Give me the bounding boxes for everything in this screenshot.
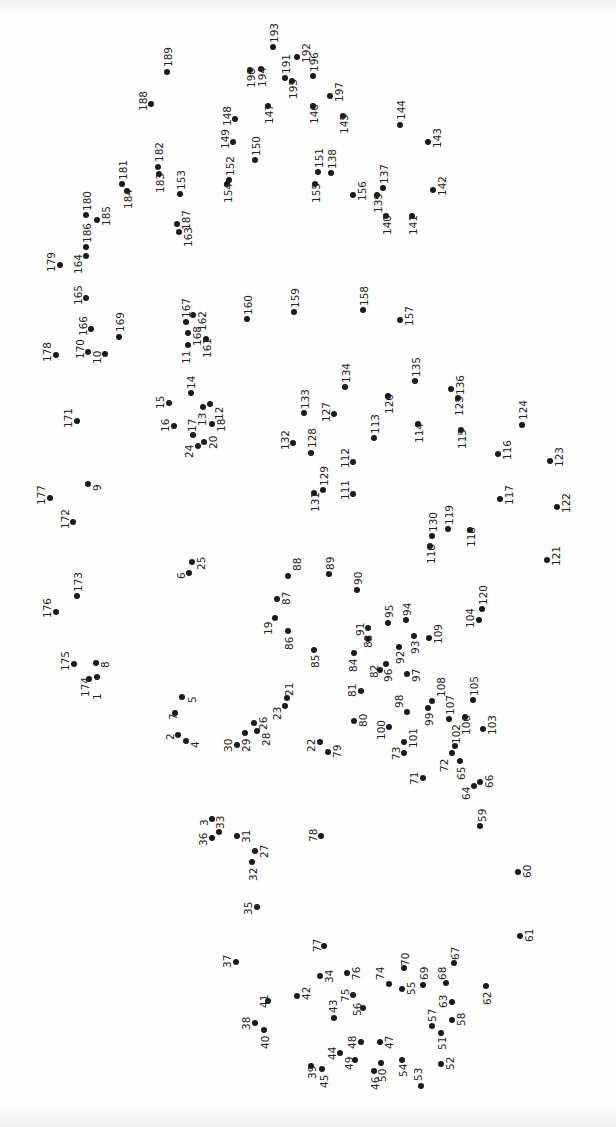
dot-point[interactable] [195,443,201,449]
dot-number-label: 124 [518,400,529,420]
dot-point[interactable] [519,422,525,428]
dot-point[interactable] [451,960,457,966]
dot-point[interactable] [331,1015,337,1021]
dot-point[interactable] [380,185,386,191]
dot-point[interactable] [319,1066,325,1072]
dot-point[interactable] [311,647,317,653]
dot-number-label: 37 [222,955,233,968]
dot-point[interactable] [385,620,391,626]
dot-point[interactable] [315,169,321,175]
dot-point[interactable] [328,170,334,176]
dot-point[interactable] [183,319,189,325]
dot-point[interactable] [291,309,297,315]
dot-point[interactable] [429,533,435,539]
dot-point[interactable] [443,980,449,986]
dot-point[interactable] [476,617,482,623]
dot-point[interactable] [449,750,455,756]
dot-number-label: 56 [352,1003,363,1016]
dot-point[interactable] [234,742,240,748]
dot-number-label: 1 [92,693,103,700]
dot-point[interactable] [301,410,307,416]
dot-point[interactable] [358,1039,364,1045]
dot-point[interactable] [116,334,122,340]
dot-point[interactable] [418,1083,424,1089]
dot-point[interactable] [249,859,255,865]
dot-point[interactable] [119,181,125,187]
dot-point[interactable] [74,418,80,424]
dot-point[interactable] [261,1027,267,1033]
dot-point[interactable] [285,628,291,634]
dot-number-label: 139 [373,193,384,213]
dot-point[interactable] [371,435,377,441]
dot-point[interactable] [438,1030,444,1036]
dot-point[interactable] [166,400,172,406]
dot-point[interactable] [209,835,215,841]
dot-point[interactable] [190,432,196,438]
dot-point[interactable] [216,829,222,835]
dot-number-label: 183 [155,173,166,193]
dot-point[interactable] [252,1020,258,1026]
dot-point[interactable] [179,694,185,700]
dot-number-label: 84 [348,659,359,672]
dot-point[interactable] [47,495,53,501]
dot-point[interactable] [317,739,323,745]
dot-point[interactable] [53,352,59,358]
dot-point[interactable] [425,705,431,711]
dot-point[interactable] [308,450,314,456]
dot-point[interactable] [177,191,183,197]
dot-number-label: 117 [504,485,515,505]
dot-point[interactable] [272,615,278,621]
dot-number-label: 24 [184,445,195,458]
dot-point[interactable] [399,1057,405,1063]
dot-point[interactable] [71,661,77,667]
dot-point[interactable] [383,661,389,667]
dot-point[interactable] [351,650,357,656]
dot-point[interactable] [57,262,63,268]
dot-point[interactable] [200,404,206,410]
dot-point[interactable] [483,983,489,989]
dot-point[interactable] [397,122,403,128]
dot-point[interactable] [378,1060,384,1066]
dot-point[interactable] [420,982,426,988]
dot-point[interactable] [354,587,360,593]
dot-point[interactable] [53,609,59,615]
dot-point[interactable] [233,959,239,965]
dot-point[interactable] [254,904,260,910]
dot-point[interactable] [470,697,476,703]
dot-point[interactable] [326,571,332,577]
dot-point[interactable] [252,157,258,163]
dot-point[interactable] [360,307,366,313]
dot-point[interactable] [477,823,483,829]
dot-point[interactable] [404,709,410,715]
dot-point[interactable] [242,730,248,736]
dot-point[interactable] [403,617,409,623]
dot-point[interactable] [429,698,435,704]
dot-point[interactable] [445,526,451,532]
dot-point[interactable] [155,164,161,170]
dot-number-label: 111 [340,480,351,500]
dot-point[interactable] [83,212,89,218]
dot-point[interactable] [83,244,89,250]
dot-point[interactable] [164,69,170,75]
dot-point[interactable] [74,593,80,599]
dot-point[interactable] [171,423,177,429]
dot-point[interactable] [420,775,426,781]
dot-point[interactable] [270,44,276,50]
dot-point[interactable] [457,758,463,764]
dot-point[interactable] [412,378,418,384]
dot-point[interactable] [446,716,452,722]
dot-point[interactable] [411,633,417,639]
dot-point[interactable] [188,390,194,396]
dot-point[interactable] [94,674,100,680]
dot-point[interactable] [244,316,250,322]
dot-number-label: 159 [290,288,301,308]
dot-point[interactable] [449,999,455,1005]
dot-point[interactable] [386,981,392,987]
dot-point[interactable] [310,73,316,79]
dot-point[interactable] [342,384,348,390]
dot-point[interactable] [285,573,291,579]
dot-point[interactable] [429,1023,435,1029]
dot-point[interactable] [358,688,364,694]
dot-point[interactable] [396,644,402,650]
dot-point[interactable] [479,606,485,612]
